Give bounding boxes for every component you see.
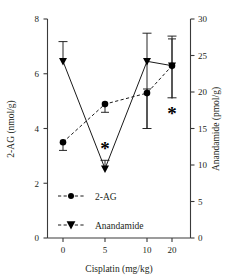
right-ticklabel-15: 15 — [198, 124, 208, 134]
2ag-marker-0 — [60, 139, 67, 146]
x-axis-ticks: 0 5 10 20 — [61, 238, 177, 255]
legend-entry-anandamide: Anandamide — [58, 221, 144, 231]
2ag-marker-10 — [144, 90, 151, 97]
right-ticklabel-20: 20 — [198, 87, 208, 97]
x-ticklabel-0: 0 — [61, 245, 66, 255]
anandamide-marker-0 — [59, 58, 67, 66]
chart-figure: 0 2 4 6 8 0 5 10 15 20 25 30 — [0, 0, 230, 279]
left-ticklabel-2: 2 — [35, 179, 40, 189]
2ag-marker-20 — [169, 62, 176, 69]
left-axis-ticks: 0 2 4 6 8 — [35, 14, 48, 243]
legend-marker-anandamide — [67, 221, 76, 229]
chart-legend: 2-AG Anandamide — [58, 192, 144, 231]
right-axis-ticks: 0 5 10 15 20 25 30 — [191, 14, 208, 243]
legend-marker-2ag — [68, 193, 74, 199]
legend-entry-2ag: 2-AG — [58, 192, 117, 202]
x-ticklabel-10: 10 — [143, 245, 153, 255]
annotation-asterisk-5: * — [100, 138, 110, 159]
right-ticklabel-0: 0 — [198, 233, 203, 243]
annotation-asterisk-20: * — [167, 103, 177, 124]
left-ticklabel-6: 6 — [35, 69, 40, 79]
x-axis-title: Cisplatin (mg/kg) — [85, 264, 152, 275]
right-ticklabel-30: 30 — [198, 14, 208, 24]
2ag-marker-5 — [102, 101, 109, 108]
legend-label-anandamide: Anandamide — [95, 221, 144, 231]
x-ticklabel-20: 20 — [168, 245, 178, 255]
left-ticklabel-4: 4 — [35, 124, 40, 134]
anandamide-line — [63, 61, 172, 168]
x-ticklabel-5: 5 — [103, 245, 108, 255]
left-ticklabel-8: 8 — [35, 14, 40, 24]
axes-group — [48, 19, 191, 238]
legend-label-2ag: 2-AG — [95, 192, 117, 202]
right-ticklabel-10: 10 — [198, 160, 208, 170]
chart-canvas: 0 2 4 6 8 0 5 10 15 20 25 30 — [0, 0, 230, 279]
left-ticklabel-0: 0 — [35, 233, 40, 243]
anandamide-marker-5 — [101, 165, 109, 173]
series-anandamide — [59, 33, 177, 173]
right-axis-title: Anandamide (pmol/g) — [211, 87, 222, 171]
left-axis-title: 2-AG (nmol/g) — [6, 100, 17, 157]
right-ticklabel-5: 5 — [198, 197, 203, 207]
right-ticklabel-25: 25 — [198, 51, 208, 61]
